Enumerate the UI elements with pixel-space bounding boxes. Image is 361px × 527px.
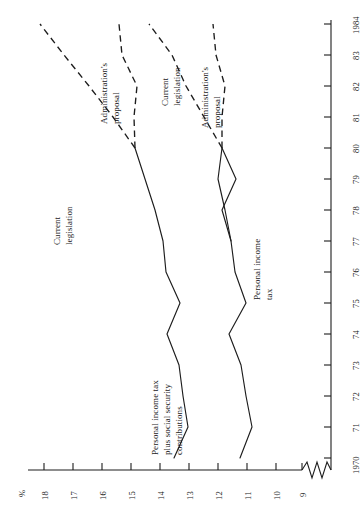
annotation-lower-series-line1: Personal income bbox=[252, 239, 262, 300]
chart-figure: % 18 17 16 15 14 13 12 11 10 9 1984 83 8… bbox=[0, 0, 361, 527]
axis-break-zigzag bbox=[302, 462, 331, 478]
year-axis bbox=[324, 20, 331, 470]
series-line-upper-current-legislation bbox=[40, 24, 135, 148]
year-tick-81: 81 bbox=[352, 113, 361, 122]
annotation-admin-proposal-upper-line2: proposal bbox=[111, 92, 121, 124]
year-tick-80: 80 bbox=[352, 144, 361, 153]
annotation-upper-series-line1: Personal income tax bbox=[150, 380, 160, 455]
percent-tick-11: 11 bbox=[244, 491, 254, 500]
year-tick-76: 76 bbox=[352, 268, 361, 277]
series-line-personal-income-tax bbox=[222, 148, 252, 458]
year-tick-75: 75 bbox=[352, 299, 361, 308]
year-tick-1970: 1970 bbox=[352, 456, 361, 474]
percent-tick-17: 17 bbox=[70, 491, 80, 500]
year-tick-79: 79 bbox=[352, 175, 361, 184]
year-tick-74: 74 bbox=[352, 330, 361, 339]
annotation-admin-proposal-upper-line1: Administration's bbox=[99, 63, 109, 124]
annotation-current-legislation-lower-line1: Current bbox=[160, 78, 170, 106]
year-tick-82: 82 bbox=[352, 82, 361, 91]
percent-tick-12: 12 bbox=[215, 491, 225, 500]
annotation-lower-series-line2: tax bbox=[264, 289, 274, 300]
percent-tick-16: 16 bbox=[99, 491, 109, 500]
year-tick-72: 72 bbox=[352, 392, 361, 401]
annotation-upper-series-line3: contributions bbox=[174, 406, 184, 455]
year-tick-71: 71 bbox=[352, 423, 361, 432]
year-tick-83: 83 bbox=[352, 51, 361, 60]
percent-axis-ticks bbox=[44, 463, 302, 470]
percent-tick-15: 15 bbox=[128, 491, 138, 500]
percent-tick-10: 10 bbox=[273, 491, 283, 500]
series-line-lower-admin-proposal bbox=[213, 24, 225, 148]
annotation-admin-proposal-lower-line2: proposal bbox=[212, 96, 222, 128]
year-tick-73: 73 bbox=[352, 361, 361, 370]
annotation-admin-proposal-lower-line1: Administration's bbox=[200, 67, 210, 128]
year-tick-77: 77 bbox=[352, 237, 361, 246]
percent-tick-9: 9 bbox=[299, 493, 309, 497]
percent-tick-18: 18 bbox=[41, 491, 51, 500]
year-axis-ticks bbox=[324, 24, 331, 458]
annotation-current-legislation-upper-line1: Current bbox=[52, 217, 62, 245]
percent-tick-13: 13 bbox=[186, 491, 196, 500]
percent-axis bbox=[28, 462, 331, 478]
annotation-upper-series-line2: plus social security bbox=[162, 384, 172, 455]
annotation-current-legislation-lower-line2: legislation bbox=[172, 67, 182, 106]
percent-axis-title: % bbox=[18, 490, 28, 497]
annotation-current-legislation-upper-line2: legislation bbox=[64, 206, 74, 245]
year-tick-78: 78 bbox=[352, 206, 361, 215]
year-tick-1984: 1984 bbox=[352, 16, 361, 34]
percent-tick-14: 14 bbox=[157, 491, 167, 500]
